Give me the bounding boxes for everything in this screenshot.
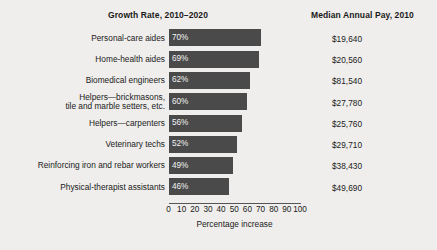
row-category-label: Reinforcing iron and rebar workers (38, 162, 165, 172)
x-axis-line (169, 203, 301, 204)
x-axis-tick-label: 50 (230, 206, 239, 214)
bar: 70% (169, 29, 261, 46)
x-axis-tick-label: 100 (293, 206, 307, 214)
x-axis-tick-label: 60 (243, 206, 252, 214)
median-pay-value: $25,760 (332, 119, 362, 129)
row-category-label: Personal-care aides (91, 34, 165, 44)
chart-row: Biomedical engineers62%$81,540 (0, 71, 437, 92)
x-axis-tick-label: 10 (177, 206, 186, 214)
x-axis-tick-label: 40 (217, 206, 226, 214)
growth-rate-header: Growth Rate, 2010–2020 (108, 10, 208, 20)
bar-value-label: 56% (172, 119, 188, 127)
median-pay-value: $81,540 (332, 76, 362, 86)
x-axis-tick-label: 90 (282, 206, 291, 214)
x-axis-tick-label: 70 (256, 206, 265, 214)
x-axis-tick-label: 80 (269, 206, 278, 214)
row-category-label: Helpers—carpenters (89, 119, 165, 129)
chart-rows: Personal-care aides70%$19,640Home-health… (0, 28, 437, 198)
median-pay-value: $19,640 (332, 34, 362, 44)
bar: 62% (169, 72, 251, 89)
median-pay-value: $29,710 (332, 140, 362, 150)
chart-row: Veterinary techs52%$29,710 (0, 134, 437, 155)
median-pay-value: $20,560 (332, 55, 362, 65)
chart-row: Helpers—brickmasons, tile and marble set… (0, 92, 437, 113)
bar-value-label: 60% (172, 98, 188, 106)
x-axis-tick-label: 30 (203, 206, 212, 214)
bar: 69% (169, 51, 260, 68)
bar-track: 69% (169, 51, 260, 68)
chart-row: Home-health aides69%$20,560 (0, 49, 437, 70)
bar: 56% (169, 115, 243, 132)
bar-track: 70% (169, 29, 261, 46)
chart-row: Physical-therapist assistants46%$49,690 (0, 177, 437, 198)
bar-track: 56% (169, 115, 243, 132)
row-category-label: Veterinary techs (106, 140, 166, 150)
bar-value-label: 46% (172, 183, 188, 191)
bar-value-label: 69% (172, 55, 188, 63)
bar: 60% (169, 93, 248, 110)
bar-track: 52% (169, 136, 237, 153)
bar-value-label: 49% (172, 162, 188, 170)
x-axis-ticks: 0102030405060708090100 (0, 206, 437, 218)
growth-rate-chart: Growth Rate, 2010–2020 Median Annual Pay… (0, 0, 437, 250)
x-axis-title: Percentage increase (169, 219, 301, 229)
bar-track: 62% (169, 72, 251, 89)
row-category-label: Physical-therapist assistants (60, 183, 165, 193)
bar-track: 46% (169, 178, 229, 195)
bar-track: 49% (169, 157, 233, 174)
median-pay-value: $49,690 (332, 183, 362, 193)
chart-row: Reinforcing iron and rebar workers49%$38… (0, 156, 437, 177)
chart-row: Helpers—carpenters56%$25,760 (0, 113, 437, 134)
row-category-label: Home-health aides (95, 55, 165, 65)
bar: 52% (169, 136, 237, 153)
median-pay-header: Median Annual Pay, 2010 (311, 10, 414, 20)
row-category-label: Biomedical engineers (86, 76, 165, 86)
bar-track: 60% (169, 93, 248, 110)
median-pay-value: $27,780 (332, 98, 362, 108)
median-pay-value: $38,430 (332, 161, 362, 171)
bar-value-label: 52% (172, 140, 188, 148)
x-axis-tick-label: 20 (190, 206, 199, 214)
chart-row: Personal-care aides70%$19,640 (0, 28, 437, 49)
row-category-label: Helpers—brickmasons, tile and marble set… (65, 93, 165, 112)
bar: 46% (169, 178, 229, 195)
bar-value-label: 70% (172, 34, 188, 42)
bar-value-label: 62% (172, 76, 188, 84)
x-axis-tick-label: 0 (166, 206, 171, 214)
bar: 49% (169, 157, 233, 174)
